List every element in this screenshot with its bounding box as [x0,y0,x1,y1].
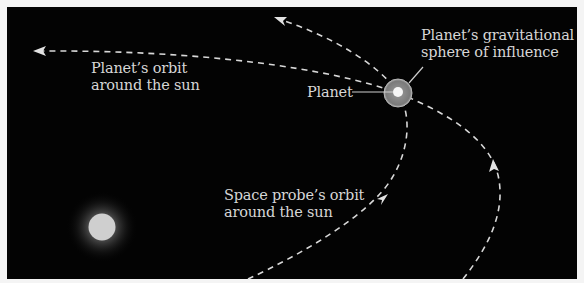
probe-orbit-label-line1: Space probe’s orbit [224,187,364,204]
planet-label: Planet [307,84,353,101]
planet-orbit-label: Planet’s orbit around the sun [91,60,200,94]
planet-with-sphere [384,79,412,107]
probe-orbit-label-line2: around the sun [224,204,364,221]
sun [66,191,138,263]
planet-orbit-arrow-up-icon [489,159,499,172]
planet-label-text: Planet [307,84,353,101]
planet-orbit-label-line2: around the sun [91,77,200,94]
planet [393,87,403,97]
gravitational-sphere-label-line2: sphere of influence [421,44,574,61]
probe-orbit-label: Space probe’s orbit around the sun [224,187,364,221]
gravitational-sphere-label: Planet’s gravitational sphere of influen… [421,27,574,61]
probe-orbit-arrow-outgoing-icon [274,17,287,26]
planet-orbit-label-line1: Planet’s orbit [91,60,200,77]
sphere-leader-line [409,67,423,83]
gravitational-sphere-label-line1: Planet’s gravitational [421,27,574,44]
probe-orbit-path [248,19,407,279]
